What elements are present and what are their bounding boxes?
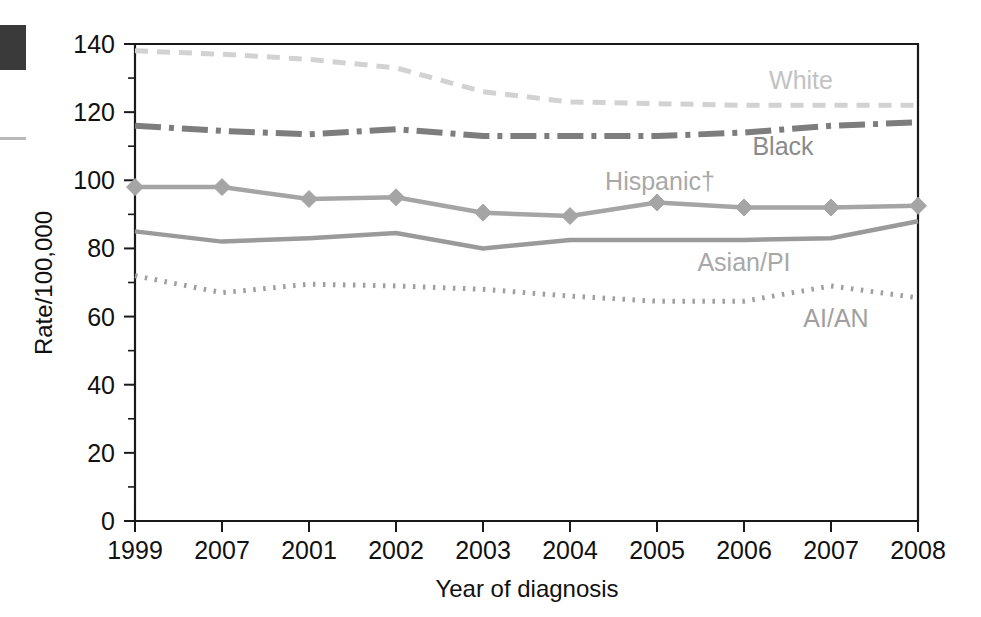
series-marker-diamond [562, 208, 579, 225]
x-axis-title: Year of diagnosis [435, 575, 618, 602]
y-tick-label: 80 [87, 234, 115, 262]
y-tick-label: 40 [87, 371, 115, 399]
x-tick-label: 2002 [368, 536, 424, 564]
series-line [135, 276, 918, 302]
series-marker-diamond [649, 194, 666, 211]
series-label-asian-pi: Asian/PI [697, 248, 790, 276]
series-label-ai-an: AI/AN [803, 304, 868, 332]
x-tick-label: 2001 [281, 536, 337, 564]
y-tick-label: 20 [87, 439, 115, 467]
series-label-hispanic: Hispanic† [605, 167, 715, 195]
series-label-white: White [769, 66, 833, 94]
y-tick-label: 60 [87, 303, 115, 331]
series-marker-diamond [214, 179, 231, 196]
series-marker-diamond [823, 199, 840, 216]
series-marker-diamond [301, 191, 318, 208]
series-line [135, 187, 918, 216]
y-tick-label: 140 [73, 30, 115, 58]
x-tick-label: 1999 [107, 536, 163, 564]
x-tick-label: 2004 [542, 536, 598, 564]
series-marker-diamond [736, 199, 753, 216]
line-chart: 0204060801001201401999200720012002200320… [0, 0, 981, 617]
y-tick-label: 100 [73, 166, 115, 194]
series-marker-diamond [388, 189, 405, 206]
x-tick-label: 2005 [629, 536, 685, 564]
x-tick-label: 2003 [455, 536, 511, 564]
y-tick-label: 0 [101, 507, 115, 535]
series-label-black: Black [752, 132, 814, 160]
x-tick-label: 2008 [890, 536, 946, 564]
x-tick-label: 2007 [803, 536, 859, 564]
y-axis-title: Rate/100,000 [30, 211, 57, 355]
x-tick-label: 2007 [194, 536, 250, 564]
series-marker-diamond [910, 197, 927, 214]
series-marker-diamond [475, 204, 492, 221]
y-tick-label: 120 [73, 98, 115, 126]
figure-page: 0204060801001201401999200720012002200320… [0, 0, 981, 617]
chart-svg: 0204060801001201401999200720012002200320… [0, 0, 981, 617]
plot-frame [135, 44, 918, 521]
chart-axes: 0204060801001201401999200720012002200320… [73, 30, 946, 564]
x-tick-label: 2006 [716, 536, 772, 564]
series-line [135, 221, 918, 248]
